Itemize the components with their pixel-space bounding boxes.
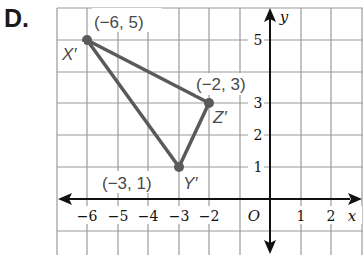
vertex-name-x: X′: [61, 45, 77, 64]
svg-text:−2: −2: [199, 208, 220, 224]
svg-text:y: y: [279, 8, 289, 26]
arrow-right-icon: [348, 193, 362, 205]
y-axis: [264, 8, 276, 254]
svg-text:−6: −6: [77, 208, 98, 224]
svg-text:O: O: [248, 207, 260, 225]
svg-text:2: 2: [327, 208, 336, 224]
vertex-y-point: [174, 162, 184, 172]
svg-text:x: x: [348, 207, 357, 225]
svg-text:1: 1: [297, 208, 306, 224]
vertex-name-z: Z′: [212, 108, 227, 127]
x-axis: [58, 193, 362, 205]
coord-label-x: (−6, 5): [94, 13, 144, 32]
coordinate-plane: −6 −5 −4 −3 −2 1 2 x O 1 2 3 5 y (−6, 5)…: [0, 0, 363, 255]
vertex-z-point: [204, 98, 214, 108]
vertex-name-y: Y′: [183, 174, 198, 193]
svg-text:−4: −4: [138, 208, 159, 224]
svg-text:2: 2: [254, 127, 263, 143]
x-tick-labels: −6 −5 −4 −3 −2 1 2 x O: [68, 206, 362, 225]
svg-text:3: 3: [254, 95, 263, 111]
coord-label-z: (−2, 3): [196, 75, 246, 94]
svg-text:1: 1: [254, 159, 263, 175]
vertex-labels: (−6, 5) X′ (−3, 1) Y′ (−2, 3) Z′: [60, 8, 266, 193]
svg-text:−3: −3: [169, 208, 190, 224]
svg-text:5: 5: [254, 32, 263, 48]
svg-text:−5: −5: [108, 208, 129, 224]
coord-label-y: (−3, 1): [102, 174, 152, 193]
